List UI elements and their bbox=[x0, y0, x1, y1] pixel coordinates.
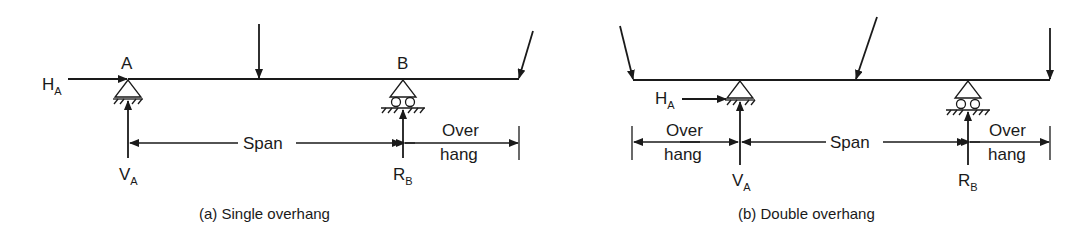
inclined-load-arrow bbox=[519, 31, 533, 78]
horizontal-reaction-label: HA bbox=[42, 75, 62, 97]
horizontal-reaction-label: HA bbox=[655, 89, 675, 111]
roller-support-icon bbox=[946, 81, 990, 115]
roller-support-icon bbox=[381, 80, 425, 113]
span-label: Span bbox=[243, 134, 283, 153]
caption-double-overhang: (b) Double overhang bbox=[738, 205, 875, 222]
panel-double-overhang: HA VA RB Over hang bbox=[620, 17, 1050, 222]
vertical-reaction-b-label: RB bbox=[393, 165, 413, 187]
pin-support-icon bbox=[113, 80, 143, 104]
inclined-load-arrow-middle bbox=[856, 17, 877, 79]
pin-support-icon bbox=[725, 81, 755, 105]
right-overhang-label-line2: hang bbox=[988, 145, 1026, 164]
panel-single-overhang: HA A VA B bbox=[42, 24, 533, 222]
left-overhang-label-line1: Over bbox=[666, 121, 703, 140]
overhang-label-line2: hang bbox=[440, 145, 478, 164]
support-b-label: B bbox=[397, 54, 408, 73]
support-a-label: A bbox=[121, 54, 133, 73]
overhang-label-line1: Over bbox=[442, 121, 479, 140]
span-label: Span bbox=[830, 133, 870, 152]
left-overhang-label-line2: hang bbox=[664, 145, 702, 164]
right-overhang-label-line1: Over bbox=[989, 121, 1026, 140]
vertical-reaction-b-label: RB bbox=[958, 171, 978, 193]
caption-single-overhang: (a) Single overhang bbox=[199, 205, 330, 222]
vertical-reaction-a-label: VA bbox=[119, 165, 138, 187]
inclined-load-arrow-left bbox=[620, 26, 633, 79]
vertical-reaction-a-label: VA bbox=[732, 171, 751, 193]
